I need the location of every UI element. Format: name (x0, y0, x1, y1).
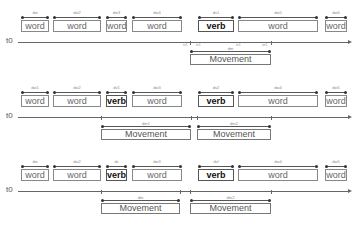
duration-label: dw3 (106, 10, 127, 15)
duration-label: dw4 (238, 85, 318, 90)
duration-label: dw5 (325, 159, 347, 164)
word-box: word (106, 20, 127, 32)
timeline-tick (101, 190, 102, 194)
duration-arrow (54, 166, 100, 167)
tick-label: tv1 (196, 43, 201, 47)
duration-arrow (133, 92, 181, 93)
word-box: word (21, 169, 49, 181)
verb-box: verb (198, 20, 234, 32)
movement-box: Movement (101, 203, 180, 214)
duration-label: dw (21, 10, 49, 15)
duration-arrow (326, 92, 346, 93)
word-box: word (132, 95, 182, 107)
duration-arrow (199, 92, 233, 93)
diagram-row: dwworddw2worddvverbdw3worddvlverbdw4word… (0, 157, 363, 227)
duration-arrow (107, 92, 126, 93)
duration-arrow (133, 166, 181, 167)
duration-arrow (199, 166, 233, 167)
duration-label: dw3 (132, 85, 182, 90)
duration-arrow (239, 92, 317, 93)
word-box: word (132, 169, 182, 181)
duration-arrow (239, 166, 317, 167)
duration-arrow (54, 17, 100, 18)
movement-duration-arrow (198, 126, 270, 127)
movement-box: Movement (190, 54, 271, 65)
verb-box: verb (106, 169, 127, 181)
duration-arrow (326, 17, 346, 18)
word-box: word (53, 169, 101, 181)
timeline-tick (197, 116, 198, 120)
duration-label: dw5 (325, 85, 347, 90)
duration-label: dw2 (53, 159, 101, 164)
duration-arrow (199, 17, 233, 18)
duration-label: dvl (198, 159, 234, 164)
duration-label: dv1 (106, 85, 127, 90)
diagram-row: dwworddw2worddw3worddw4worddv1verbdw5wor… (0, 8, 363, 80)
duration-label: dw2 (53, 85, 101, 90)
tick-label: tw1 (262, 43, 267, 47)
duration-arrow (239, 17, 317, 18)
duration-label: dw5 (238, 10, 318, 15)
timeline-tick (190, 41, 191, 45)
word-box: word (132, 20, 182, 32)
duration-label: dw4 (238, 159, 318, 164)
movement-box: Movement (190, 203, 271, 214)
timeline-tick (101, 116, 102, 120)
duration-arrow (326, 166, 346, 167)
tick-label: tv1 (183, 43, 188, 47)
duration-arrow (22, 92, 48, 93)
verb-box: verb (198, 95, 234, 107)
duration-label: dw4 (132, 10, 182, 15)
timeline-tick (271, 116, 272, 120)
timeline-tick (180, 190, 181, 194)
movement-box: Movement (197, 129, 271, 140)
duration-label: dw2 (53, 10, 101, 15)
word-box: word (325, 169, 347, 181)
movement-duration-arrow (191, 51, 270, 52)
duration-label: dw (21, 159, 49, 164)
timeline-axis (18, 191, 350, 192)
duration-arrow (22, 17, 48, 18)
word-box: word (325, 20, 347, 32)
word-box: word (325, 95, 347, 107)
duration-arrow (107, 166, 126, 167)
movement-duration-arrow (102, 200, 179, 201)
movement-box: Movement (101, 129, 191, 140)
word-box: word (53, 95, 101, 107)
word-box: word (21, 95, 49, 107)
duration-label: dv (106, 159, 127, 164)
timeline-tick (191, 116, 192, 120)
duration-arrow (107, 17, 126, 18)
duration-label: dw1 (21, 85, 49, 90)
duration-label: dw6 (325, 10, 347, 15)
movement-duration-arrow (191, 200, 270, 201)
timeline-tick (190, 190, 191, 194)
verb-box: verb (106, 95, 127, 107)
word-box: word (53, 20, 101, 32)
timeline-axis (18, 117, 350, 118)
diagram-row: dw1worddw2worddv1verbdw3worddv2verbdw4wo… (0, 83, 363, 155)
t0-label: t0 (6, 111, 13, 120)
duration-label: dw3 (132, 159, 182, 164)
timeline-tick (271, 190, 272, 194)
word-box: word (238, 95, 318, 107)
word-box: word (238, 20, 318, 32)
duration-label: dv2 (198, 85, 234, 90)
tick-label: tv1 (236, 43, 241, 47)
duration-arrow (133, 17, 181, 18)
word-box: word (238, 169, 318, 181)
duration-arrow (22, 166, 48, 167)
t0-label: t0 (6, 36, 13, 45)
duration-arrow (54, 92, 100, 93)
timeline-tick (271, 41, 272, 45)
t0-label: t0 (6, 185, 13, 194)
duration-label: dv1 (198, 10, 234, 15)
verb-box: verb (198, 169, 234, 181)
movement-duration-arrow (102, 126, 190, 127)
word-box: word (21, 20, 49, 32)
